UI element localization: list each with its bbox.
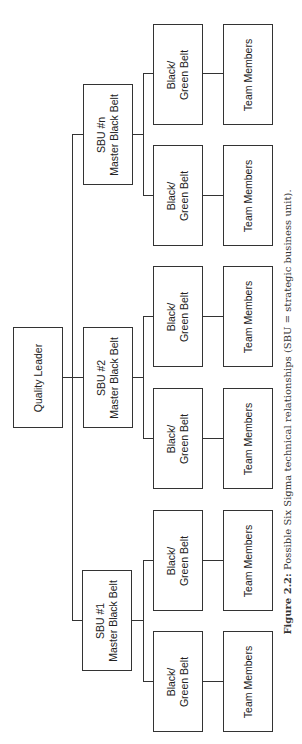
sbu-title: SBU #n — [95, 94, 108, 176]
team-label: Team Members — [242, 38, 255, 110]
belt-line1: Black/ — [165, 291, 178, 341]
caption-text: Possible Six Sigma technical relationshi… — [282, 189, 293, 573]
sbu-n-label: SBU #n Master Black Belt — [95, 94, 121, 176]
belt-label: Black/ Green Belt — [165, 291, 191, 341]
connector — [131, 620, 143, 621]
connector — [202, 681, 223, 682]
belt-box: Black/ Green Belt — [153, 631, 203, 732]
belt-line1: Black/ — [165, 656, 178, 706]
belt-line2: Green Belt — [178, 291, 191, 341]
team-label: Team Members — [242, 159, 255, 231]
belt-box: Black/ Green Belt — [153, 145, 203, 246]
belt-label: Black/ Green Belt — [165, 170, 191, 220]
spine-connector — [72, 134, 73, 621]
belt-line2: Green Belt — [178, 49, 191, 99]
belt-line1: Black/ — [165, 49, 178, 99]
connector — [72, 134, 83, 135]
belt-box: Black/ Green Belt — [153, 24, 203, 125]
belt-line2: Green Belt — [178, 656, 191, 706]
connector — [143, 438, 153, 439]
belt-box: Black/ Green Belt — [153, 266, 203, 367]
belt-line2: Green Belt — [178, 413, 191, 463]
sbu-1-box: SBU #1 Master Black Belt — [82, 570, 132, 671]
sbu-2-box: SBU #2 Master Black Belt — [83, 327, 133, 428]
connector — [132, 134, 143, 135]
team-box: Team Members — [223, 631, 273, 732]
team-label: Team Members — [242, 524, 255, 596]
figure-caption: Figure 2.2: Possible Six Sigma technical… — [282, 189, 293, 634]
connector — [143, 73, 144, 195]
belt-label: Black/ Green Belt — [165, 535, 191, 585]
connector — [143, 681, 153, 682]
belt-line2: Green Belt — [178, 170, 191, 220]
belt-line1: Black/ — [165, 413, 178, 463]
connector — [143, 316, 153, 317]
sbu-2-label: SBU #2 Master Black Belt — [95, 337, 121, 419]
belt-label: Black/ Green Belt — [165, 656, 191, 706]
connector — [143, 560, 153, 561]
connector — [202, 195, 223, 196]
caption-label: Figure 2.2: — [282, 573, 293, 634]
belt-box: Black/ Green Belt — [153, 388, 203, 489]
team-box: Team Members — [223, 145, 273, 246]
belt-label: Black/ Green Belt — [165, 49, 191, 99]
team-box: Team Members — [223, 266, 273, 367]
belt-line1: Black/ — [165, 170, 178, 220]
team-box: Team Members — [223, 24, 273, 125]
connector — [143, 560, 144, 682]
sbu-title: SBU #1 — [94, 580, 107, 662]
sbu-title: SBU #2 — [95, 337, 108, 419]
connector — [143, 73, 153, 74]
belt-label: Black/ Green Belt — [165, 413, 191, 463]
sbu-n-box: SBU #n Master Black Belt — [83, 84, 133, 185]
belt-line2: Green Belt — [178, 535, 191, 585]
connector — [132, 377, 143, 378]
connector — [202, 316, 223, 317]
team-label: Team Members — [242, 645, 255, 717]
connector — [143, 195, 153, 196]
sbu-role: Master Black Belt — [108, 337, 121, 419]
belt-line1: Black/ — [165, 535, 178, 585]
quality-leader-label: Quality Leader — [32, 343, 45, 411]
sbu-1-label: SBU #1 Master Black Belt — [94, 580, 120, 662]
belt-box: Black/ Green Belt — [153, 510, 203, 611]
connector — [202, 560, 223, 561]
team-label: Team Members — [242, 280, 255, 352]
connector — [143, 316, 144, 438]
quality-leader-box: Quality Leader — [13, 327, 63, 428]
sbu-role: Master Black Belt — [107, 580, 120, 662]
sbu-role: Master Black Belt — [108, 94, 121, 176]
connector — [202, 438, 223, 439]
team-box: Team Members — [223, 388, 273, 489]
connector — [202, 73, 223, 74]
team-box: Team Members — [223, 510, 273, 611]
team-label: Team Members — [242, 402, 255, 474]
